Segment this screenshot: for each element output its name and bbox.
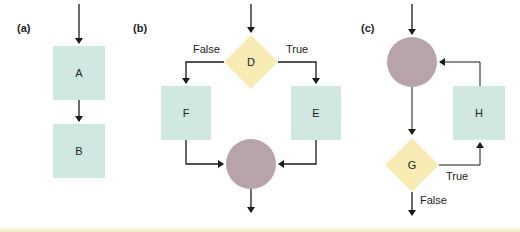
box-f-label: F [183,107,190,119]
panel-a: (a) A B [17,4,105,178]
true-branch-label: True [286,43,308,55]
panel-a-label: (a) [17,22,31,34]
bottom-rule [0,228,520,232]
junction-circle-b [226,139,276,189]
flowchart-diagrams: (a) A B (b) D False True F E (c) G [0,0,520,232]
diamond-g-label: G [408,159,417,171]
arrow-d-to-f [186,62,224,83]
arrow-h-to-join [440,62,480,86]
box-b-label: B [75,145,82,157]
arrow-f-to-join [186,140,223,164]
panel-b-label: (b) [133,22,147,34]
false-branch-label: False [193,43,220,55]
panel-c: (c) G True H False [361,4,505,215]
arrow-e-to-join [279,140,316,164]
panel-b: (b) D False True F E [133,4,341,212]
panel-c-label: (c) [361,22,375,34]
true-branch-label-c: True [446,170,468,182]
diamond-d-label: D [247,56,255,68]
arrow-d-to-e [278,62,316,83]
arrow-g-to-h [439,143,480,165]
box-h-label: H [475,107,483,119]
false-branch-label-c: False [420,194,447,206]
box-e-label: E [312,107,319,119]
junction-circle-c [387,37,437,87]
box-a-label: A [75,67,83,79]
